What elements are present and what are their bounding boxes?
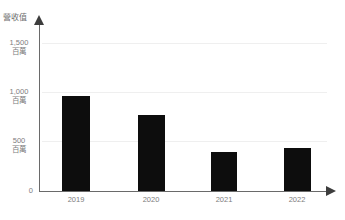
x-axis-line bbox=[39, 191, 327, 192]
gridline-1500 bbox=[42, 43, 327, 44]
y-tick-1000: 1,000 百萬 bbox=[2, 87, 36, 105]
gridline-1000 bbox=[42, 92, 327, 93]
bar-chart: 營收值 1,500 百萬 1,000 百萬 500 百萬 0 2019 2020… bbox=[0, 0, 345, 220]
x-tick-2019: 2019 bbox=[46, 195, 106, 205]
y-tick-1000-unit: 百萬 bbox=[2, 96, 36, 105]
plot-area bbox=[40, 20, 335, 192]
bar-2020[interactable] bbox=[138, 115, 165, 191]
bar-2019[interactable] bbox=[62, 96, 90, 191]
x-tick-2020: 2020 bbox=[121, 195, 181, 205]
bar-2021[interactable] bbox=[211, 152, 237, 191]
y-tick-1500-value: 1,500 bbox=[2, 38, 36, 47]
x-tick-2021: 2021 bbox=[194, 195, 254, 205]
y-axis-line bbox=[39, 24, 40, 192]
y-axis-title: 營收值 bbox=[3, 13, 27, 23]
y-tick-1500-unit: 百萬 bbox=[2, 47, 36, 56]
y-tick-500: 500 百萬 bbox=[2, 136, 36, 154]
x-tick-2022: 2022 bbox=[267, 195, 327, 205]
y-tick-500-unit: 百萬 bbox=[2, 145, 36, 154]
y-tick-0-value: 0 bbox=[3, 186, 33, 195]
x-axis-arrow-icon bbox=[326, 186, 336, 196]
y-tick-1000-value: 1,000 bbox=[2, 87, 36, 96]
y-tick-500-value: 500 bbox=[2, 136, 36, 145]
y-axis-arrow-icon bbox=[34, 15, 44, 25]
y-tick-0: 0 bbox=[3, 186, 33, 195]
bar-2022[interactable] bbox=[284, 148, 311, 191]
y-tick-1500: 1,500 百萬 bbox=[2, 38, 36, 56]
